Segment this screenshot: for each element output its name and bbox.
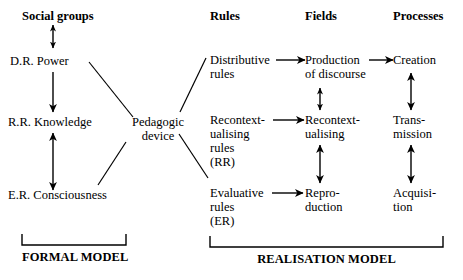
node-acquisition-line1: Acquisi- (393, 186, 436, 201)
node-recontextualising-rules-line2: ualising (210, 127, 250, 142)
node-recontextualising-field-line2: ualising (305, 127, 345, 142)
node-distributive-rules-line1: Distributive (210, 53, 270, 68)
node-transmission-line2: mission (393, 127, 432, 142)
caption-realisation-model: REALISATION MODEL (210, 252, 443, 267)
node-production-of-discourse-line2: of discourse (305, 67, 366, 82)
column-header-processes: Processes (393, 9, 443, 24)
node-evaluative-rules-line2: rules (210, 200, 234, 215)
node-distributive-rules-line2: rules (210, 67, 234, 82)
node-recontextualising-field-line1: Recontext- (305, 113, 360, 128)
node-dr-power: D.R. Power (10, 54, 69, 69)
bracket-formal-model (22, 234, 126, 245)
link-pedagogic-device-er-consciousness (98, 142, 126, 185)
node-acquisition-line2: tion (393, 200, 412, 215)
node-rr-knowledge: R.R. Knowledge (8, 115, 92, 130)
link-dr-power-pedagogic-device (89, 62, 133, 117)
node-recontextualising-rules-line4: (RR) (210, 155, 235, 170)
node-pedagogic-device-line2: device (130, 129, 186, 144)
link-pedagogic-device-distributive-rules (180, 58, 206, 112)
diagram-canvas: Social groups Rules Fields Processes D.R… (0, 0, 463, 280)
node-pedagogic-device-line1: Pedagogic (130, 115, 186, 130)
node-reproduction-line2: duction (305, 200, 343, 215)
bracket-realisation-model (210, 236, 443, 247)
node-recontextualising-rules-line1: Recontext- (210, 113, 265, 128)
node-transmission-line1: Trans- (393, 113, 425, 128)
node-creation-line1: Creation (393, 53, 436, 68)
node-evaluative-rules-line3: (ER) (210, 214, 234, 229)
caption-formal-model: FORMAL MODEL (22, 250, 128, 265)
node-evaluative-rules-line1: Evaluative (210, 186, 263, 201)
node-production-of-discourse-line1: Production (305, 53, 360, 68)
node-reproduction-line1: Repro- (305, 186, 340, 201)
column-header-fields: Fields (305, 9, 337, 24)
node-er-consciousness: E.R. Consciousness (8, 188, 107, 203)
column-header-social-groups: Social groups (22, 9, 94, 24)
node-recontextualising-rules-line3: rules (210, 141, 234, 156)
column-header-rules: Rules (210, 9, 240, 24)
